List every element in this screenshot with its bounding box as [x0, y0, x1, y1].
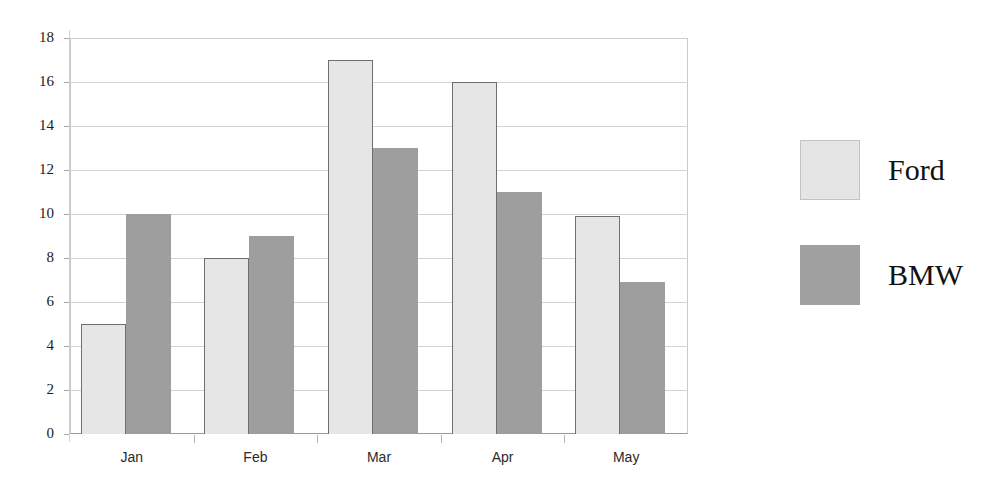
- legend-item-ford[interactable]: Ford: [800, 139, 945, 201]
- legend-label-ford: Ford: [888, 155, 945, 185]
- bar-bmw-jan[interactable]: [126, 214, 171, 434]
- y-tick-label: 14: [8, 118, 54, 133]
- y-tick-label: 4: [8, 338, 54, 353]
- bar-bmw-feb[interactable]: [249, 236, 294, 434]
- y-tick-label: 6: [8, 294, 54, 309]
- bar-bmw-mar[interactable]: [373, 148, 418, 434]
- legend-label-bmw: BMW: [888, 260, 963, 290]
- bar-ford-apr[interactable]: [452, 82, 497, 434]
- x-tick-mark: [564, 435, 565, 443]
- legend-swatch-bmw: [800, 245, 860, 305]
- y-tick-label: 10: [8, 206, 54, 221]
- y-tick-label: 2: [8, 382, 54, 397]
- bar-bmw-may[interactable]: [620, 282, 665, 434]
- bar-ford-feb[interactable]: [204, 258, 249, 434]
- gridline: [70, 126, 688, 127]
- x-tick-mark: [317, 435, 318, 443]
- bar-ford-mar[interactable]: [328, 60, 373, 434]
- legend-swatch-ford: [800, 140, 860, 200]
- x-tick-label-feb: Feb: [205, 450, 305, 464]
- x-tick-label-jan: Jan: [82, 450, 182, 464]
- x-tick-label-may: May: [576, 450, 676, 464]
- bar-ford-may[interactable]: [575, 216, 620, 434]
- legend-item-bmw[interactable]: BMW: [800, 244, 963, 306]
- x-tick-label-mar: Mar: [329, 450, 429, 464]
- y-tick-label: 0: [8, 426, 54, 441]
- y-tick-label: 16: [8, 74, 54, 89]
- x-tick-label-apr: Apr: [453, 450, 553, 464]
- gridline: [70, 82, 688, 83]
- y-tick-label: 18: [8, 30, 54, 45]
- bar-chart: 024681012141618 JanFebMarAprMay Ford BMW: [0, 0, 1000, 489]
- y-tick-label: 8: [8, 250, 54, 265]
- bar-ford-jan[interactable]: [81, 324, 126, 434]
- bar-bmw-apr[interactable]: [497, 192, 542, 434]
- x-tick-mark: [194, 435, 195, 443]
- x-tick-mark: [441, 435, 442, 443]
- y-tick-label: 12: [8, 162, 54, 177]
- plot-area: [70, 38, 688, 434]
